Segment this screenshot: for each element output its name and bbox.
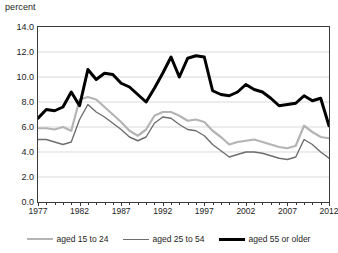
- x-axis-tick-mark: [213, 202, 214, 205]
- x-axis-tick-mark: [113, 202, 114, 205]
- x-axis-tick-mark: [171, 202, 172, 205]
- y-axis-tick-label: 2.0: [0, 172, 34, 182]
- x-axis-tick-mark: [71, 202, 72, 205]
- x-axis-tick-mark: [221, 202, 222, 205]
- legend-label: aged 55 or older: [249, 234, 311, 244]
- x-axis-tick-mark: [287, 202, 288, 206]
- x-axis-tick-mark: [38, 202, 39, 206]
- x-axis-tick-mark: [88, 202, 89, 205]
- x-axis-tick-mark: [163, 202, 164, 206]
- data-series-layer: [38, 56, 329, 160]
- legend-label: aged 15 to 24: [57, 234, 109, 244]
- y-axis-tick-label: 8.0: [0, 97, 34, 107]
- x-axis-tick-mark: [321, 202, 322, 205]
- x-axis-tick-label: 1982: [70, 206, 89, 216]
- x-axis-tick-mark: [146, 202, 147, 205]
- x-axis-tick-mark: [96, 202, 97, 205]
- x-axis-tick-mark: [238, 202, 239, 205]
- series-line-aged-25-to-54: [38, 105, 329, 160]
- x-axis-tick-mark: [329, 202, 330, 206]
- x-axis-tick-label: 2002: [236, 206, 255, 216]
- x-axis-tick-mark: [80, 202, 81, 206]
- x-axis-tick-mark: [312, 202, 313, 205]
- x-axis-tick-label: 2012: [320, 206, 338, 216]
- x-axis-tick-mark: [229, 202, 230, 205]
- plot-area: [37, 26, 330, 203]
- y-axis-tick-label: 10.0: [0, 72, 34, 82]
- legend-item-aged-15-to-24[interactable]: aged 15 to 24: [27, 234, 109, 244]
- y-axis-title: percent: [5, 2, 36, 12]
- x-axis-tick-mark: [63, 202, 64, 205]
- y-axis-tick-label: 6.0: [0, 122, 34, 132]
- legend-swatch-icon: [123, 239, 149, 240]
- x-axis-tick-mark: [296, 202, 297, 205]
- x-axis-tick-mark: [138, 202, 139, 205]
- x-axis-tick-label: 1992: [153, 206, 172, 216]
- plot-canvas: [38, 27, 329, 202]
- x-axis-tick-label: 2007: [278, 206, 297, 216]
- legend-label: aged 25 to 54: [153, 234, 205, 244]
- legend-item-aged-55-or-older[interactable]: aged 55 or older: [219, 234, 311, 244]
- x-axis-tick-mark: [129, 202, 130, 205]
- x-axis-tick-mark: [279, 202, 280, 205]
- legend-swatch-icon: [27, 238, 53, 240]
- y-axis-tick-label: 12.0: [0, 47, 34, 57]
- y-axis-tick-label: 14.0: [0, 22, 34, 32]
- legend-item-aged-25-to-54[interactable]: aged 25 to 54: [123, 234, 205, 244]
- x-axis-tick-label: 1987: [112, 206, 131, 216]
- x-axis-tick-mark: [105, 202, 106, 205]
- legend-swatch-icon: [219, 238, 245, 241]
- x-axis-tick-mark: [262, 202, 263, 205]
- x-axis-tick-mark: [196, 202, 197, 205]
- x-axis-tick-mark: [271, 202, 272, 205]
- x-axis-tick-mark: [188, 202, 189, 205]
- x-axis-tick-label: 1977: [29, 206, 48, 216]
- y-axis-tick-label: 4.0: [0, 147, 34, 157]
- x-axis-tick-mark: [121, 202, 122, 206]
- x-axis-tick-mark: [254, 202, 255, 205]
- chart-legend: aged 15 to 24 aged 25 to 54 aged 55 or o…: [0, 231, 337, 247]
- x-axis-tick-mark: [304, 202, 305, 205]
- x-axis-tick-mark: [246, 202, 247, 206]
- x-axis-tick-label: 1997: [195, 206, 214, 216]
- x-axis-tick-mark: [204, 202, 205, 206]
- x-axis-tick-mark: [154, 202, 155, 205]
- x-axis-tick-mark: [179, 202, 180, 205]
- x-axis-tick-mark: [46, 202, 47, 205]
- x-axis-tick-mark: [55, 202, 56, 205]
